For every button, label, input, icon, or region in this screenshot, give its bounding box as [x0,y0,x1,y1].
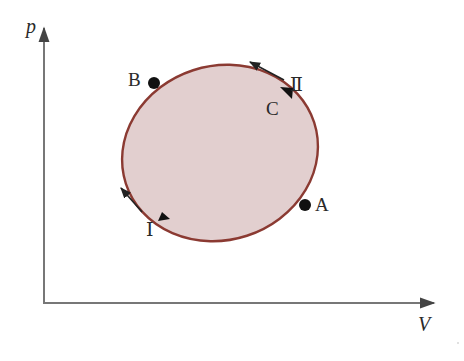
point-b-dot [148,77,160,89]
speck [457,342,459,344]
path-i-label: Ⅰ [146,219,154,240]
point-a-label: A [315,194,329,215]
point-b-label: B [128,69,141,90]
p-axis-label: p [24,15,36,38]
pv-diagram: p V A B C Ⅰ Ⅱ [0,0,464,361]
point-a-dot [299,199,311,211]
v-axis-label: V [418,313,433,335]
path-ii-label: Ⅱ [290,74,303,95]
point-c-label: C [266,98,279,119]
